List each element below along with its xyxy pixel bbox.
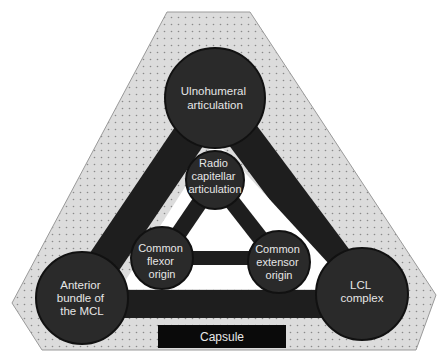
elbow-stability-diagram: Ulnohumeral articulation Radio capitella…: [0, 0, 447, 363]
svg-text:Anterior bundle of: Anterior bundle of the MCL: [57, 279, 108, 317]
common-extensor-label-line1: Common: [255, 243, 300, 255]
capsule-label: Capsule: [200, 330, 244, 344]
ulnohumeral-circle: [165, 48, 265, 148]
common-flexor-label-line1: Common: [138, 242, 183, 254]
radiocapitellar-label-line1: Radio: [199, 157, 228, 169]
node-anterior-bundle-mcl: Anterior bundle of the MCL: [36, 252, 128, 344]
common-flexor-label-line2: flexor: [147, 255, 174, 267]
anterior-mcl-label-line2: bundle of: [57, 292, 105, 304]
common-extensor-label-line2: extensor: [256, 256, 299, 268]
lcl-complex-label-line1: LCL: [350, 279, 372, 291]
node-radiocapitellar-articulation: Radio capitellar articulation: [186, 151, 244, 209]
common-flexor-label-line3: origin: [149, 268, 176, 280]
node-ulnohumeral-articulation: Ulnohumeral articulation: [165, 48, 265, 148]
anterior-mcl-label-line1: Anterior: [60, 279, 100, 291]
anterior-mcl-label-line3: the MCL: [60, 305, 104, 317]
lcl-complex-label-line2: complex: [341, 292, 384, 304]
common-extensor-label-line3: origin: [266, 269, 293, 281]
node-lcl-complex: LCL complex: [316, 248, 408, 340]
ulnohumeral-label-line1: Ulnohumeral: [181, 85, 246, 97]
radiocapitellar-label-line2: capitellar: [191, 170, 235, 182]
node-common-extensor-origin: Common extensor origin: [248, 231, 310, 293]
radiocapitellar-label-line3: articulation: [188, 183, 241, 195]
node-common-flexor-origin: Common flexor origin: [131, 227, 193, 289]
capsule-label-box: Capsule: [158, 325, 286, 348]
ulnohumeral-label-line2: articulation: [187, 99, 243, 111]
